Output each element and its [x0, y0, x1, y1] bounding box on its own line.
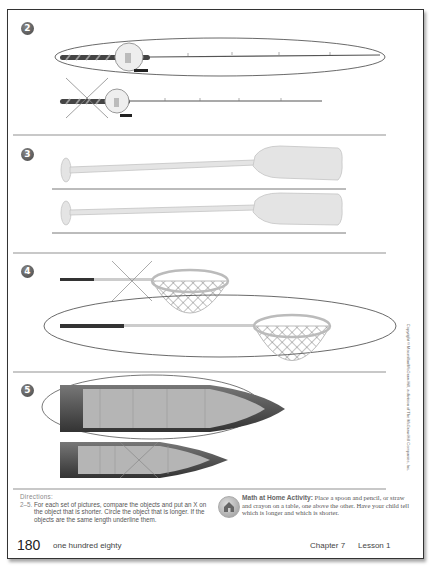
directions-range: 2–5. — [20, 501, 34, 524]
section-divider — [13, 488, 386, 490]
page-number-words: one hundred eighty — [53, 541, 122, 550]
home-activity-title: Math at Home Activity: — [242, 494, 313, 501]
canoes-illustration — [0, 0, 429, 566]
directions-text: For each set of pictures, compare the ob… — [34, 501, 210, 524]
lesson-label: Lesson 1 — [358, 541, 390, 550]
chapter-label: Chapter 7 — [310, 541, 345, 550]
house-icon — [218, 496, 240, 518]
page-number: 180 — [17, 537, 40, 553]
directions-block: Directions: 2–5. For each set of picture… — [20, 493, 210, 523]
directions-title: Directions: — [20, 493, 210, 501]
copyright-notice: Copyright © Macmillan/McGraw-Hill, a div… — [403, 300, 413, 500]
